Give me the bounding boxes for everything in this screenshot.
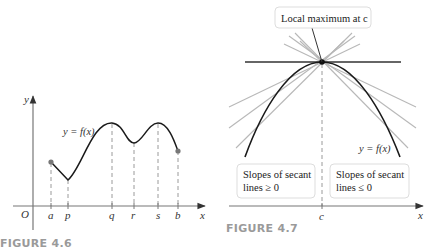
right-box-line2: lines ≤ 0 bbox=[336, 182, 372, 193]
figure-4-6: y x O a p q r s b y = f(x) FIGURE 4.6 bbox=[0, 93, 205, 250]
figure-caption: FIGURE 4.6 bbox=[0, 237, 72, 250]
origin-label: O bbox=[21, 208, 29, 220]
figure-caption: FIGURE 4.7 bbox=[226, 222, 298, 235]
endpoint-a bbox=[48, 159, 53, 164]
tick-label-s: s bbox=[156, 209, 160, 221]
left-box-line1: Slopes of secant bbox=[243, 169, 311, 180]
tick-label-c: c bbox=[319, 210, 324, 222]
tick-label-r: r bbox=[131, 209, 136, 221]
x-axis-label: x bbox=[417, 209, 423, 221]
tick-label-p: p bbox=[64, 209, 71, 221]
tick-label-a: a bbox=[48, 209, 54, 221]
figures-canvas: y x O a p q r s b y = f(x) FIGURE 4.6 bbox=[0, 0, 437, 252]
y-axis-label: y bbox=[23, 93, 29, 105]
figure-4-7: Local maximum at c y = f(x) Slopes of se… bbox=[226, 7, 423, 235]
tick-label-q: q bbox=[109, 209, 115, 221]
callout-text: Local maximum at c bbox=[281, 13, 368, 24]
tick-label-b: b bbox=[175, 209, 181, 221]
endpoint-b bbox=[175, 148, 180, 153]
x-axis-label: x bbox=[199, 209, 205, 221]
curve-label: y = f(x) bbox=[358, 143, 391, 155]
right-box-line1: Slopes of secant bbox=[336, 169, 404, 180]
curve-label: y = f(x) bbox=[62, 126, 95, 138]
left-box-line2: lines ≥ 0 bbox=[243, 182, 279, 193]
